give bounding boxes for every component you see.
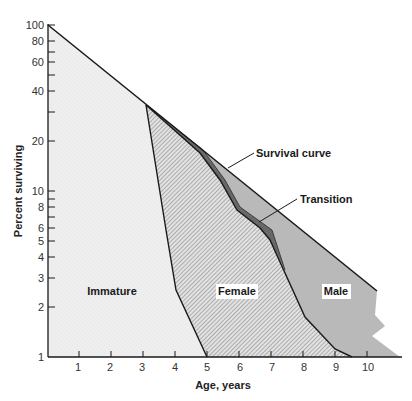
y-tick-label: 60 bbox=[32, 56, 44, 68]
y-tick-label: 2 bbox=[38, 301, 44, 313]
x-tick-label: 1 bbox=[75, 361, 81, 373]
y-tick-label: 100 bbox=[26, 19, 44, 31]
x-tick-label: 2 bbox=[107, 361, 113, 373]
x-tick-labels: 1 2 3 4 5 6 7 8 9 10 bbox=[75, 361, 374, 373]
y-tick-label: 5 bbox=[38, 235, 44, 247]
immature-label: Immature bbox=[87, 285, 137, 297]
x-tick-label: 5 bbox=[204, 361, 210, 373]
y-tick-label: 40 bbox=[32, 85, 44, 97]
x-axis-title: Age, years bbox=[195, 379, 251, 391]
y-axis-title: Percent surviving bbox=[12, 145, 24, 237]
transition-label: Transition bbox=[300, 193, 353, 205]
survival-curve-leader bbox=[228, 153, 254, 168]
x-tick-label: 7 bbox=[269, 361, 275, 373]
y-tick-label: 6 bbox=[38, 222, 44, 234]
x-tick-label: 6 bbox=[237, 361, 243, 373]
x-tick-label: 3 bbox=[139, 361, 145, 373]
x-tick-label: 4 bbox=[172, 361, 178, 373]
survival-chart: 100 80 60 40 20 10 8 6 5 4 3 2 1 1 2 3 4… bbox=[0, 0, 412, 401]
y-tick-label: 4 bbox=[38, 251, 44, 263]
survival-curve-label: Survival curve bbox=[256, 147, 331, 159]
y-tick-label: 1 bbox=[38, 351, 44, 363]
y-tick-label: 3 bbox=[38, 272, 44, 284]
y-tick-label: 8 bbox=[38, 201, 44, 213]
y-tick-label: 20 bbox=[32, 135, 44, 147]
y-tick-label: 10 bbox=[32, 185, 44, 197]
x-tick-label: 9 bbox=[333, 361, 339, 373]
male-label: Male bbox=[324, 285, 348, 297]
x-tick-label: 8 bbox=[301, 361, 307, 373]
y-tick-label: 80 bbox=[32, 35, 44, 47]
female-label: Female bbox=[218, 285, 256, 297]
x-tick-label: 10 bbox=[362, 361, 374, 373]
y-tick-labels: 100 80 60 40 20 10 8 6 5 4 3 2 1 bbox=[26, 19, 44, 363]
